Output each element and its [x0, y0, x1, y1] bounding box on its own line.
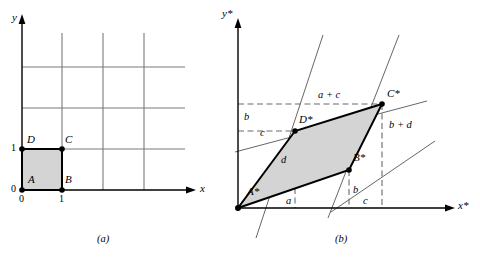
panel-b-canvas	[215, 0, 480, 261]
dim-label-c-left: c	[260, 128, 265, 139]
panel-b-caption: (b)	[335, 233, 347, 244]
panel-b-xstar-axis-label: x*	[458, 200, 468, 211]
vertex-dot-B-star	[346, 167, 352, 173]
vertex-label-A-star: A*	[247, 186, 259, 197]
vertex-label-A: A	[28, 174, 35, 185]
vertex-dot-B	[59, 187, 65, 193]
dim-label-c-bottom: c	[363, 196, 368, 207]
panel-a-x-axis-label: x	[200, 183, 205, 194]
vertex-label-C-star: C*	[387, 88, 400, 99]
figure-root: y x 0 1 0 1 A B C D (a)	[0, 0, 480, 261]
xstar-axis-arrowhead	[445, 205, 455, 212]
vertex-dot-D	[19, 146, 25, 152]
dim-label-b-plus-d: b + d	[389, 120, 412, 131]
panel-a-unit-square: y x 0 1 0 1 A B C D (a)	[0, 0, 215, 261]
x-axis-arrowhead	[186, 187, 196, 194]
ystar-axis-arrowhead	[235, 18, 242, 28]
dim-label-a-plus-c: a + c	[318, 90, 340, 101]
vertex-dot-D-star	[292, 128, 298, 134]
panel-b-ystar-axis-label: y*	[222, 8, 232, 19]
panel-a-y-axis-label: y	[12, 12, 17, 23]
vertex-dot-C	[59, 146, 65, 152]
dim-label-b-left: b	[244, 112, 249, 123]
dim-label-d-interior: d	[281, 155, 286, 166]
vertex-label-B: B	[65, 174, 72, 185]
dim-label-a-bottom: a	[286, 196, 291, 207]
tick-y-one: 1	[11, 143, 16, 153]
tick-y-zero: 0	[11, 184, 16, 194]
vertex-label-D: D	[27, 134, 35, 145]
vertex-dot-A-star	[235, 205, 241, 211]
dim-label-b-bottom: b	[353, 185, 358, 196]
tick-x-zero: 0	[19, 194, 24, 204]
y-axis-arrowhead	[19, 14, 26, 24]
vertex-dot-A	[19, 187, 25, 193]
vertex-label-D-star: D*	[299, 114, 312, 125]
tick-x-one: 1	[59, 194, 64, 204]
panel-a-caption: (a)	[97, 233, 109, 244]
panel-a-canvas	[0, 0, 215, 261]
panel-b-parallelogram: y* x* A* B* C* D* a b c b c d a + c b + …	[215, 0, 480, 261]
vertex-label-C: C	[65, 134, 72, 145]
vertex-label-B-star: B*	[353, 152, 365, 163]
grid-vertical-lines	[62, 33, 144, 190]
vertex-dot-C-star	[379, 101, 385, 107]
